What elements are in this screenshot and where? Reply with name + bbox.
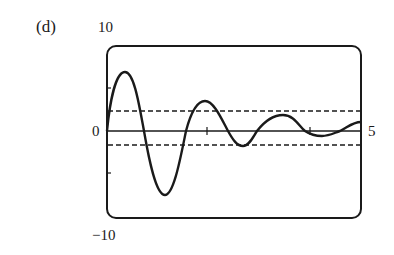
data-curve	[107, 72, 361, 195]
plot-area	[0, 0, 394, 255]
